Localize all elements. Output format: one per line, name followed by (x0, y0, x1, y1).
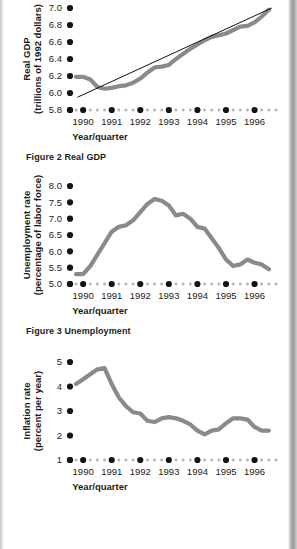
figure-caption-real-gdp: Figure 2 Real GDP (4, 152, 288, 162)
x-tick-marker-year (109, 281, 115, 287)
y-tick-marker (67, 5, 73, 11)
x-tick-marker-quarter (189, 459, 192, 462)
y-tick-marker (67, 199, 73, 205)
x-tick-marker-year (223, 107, 229, 113)
x-tick-marker-quarter (267, 459, 270, 462)
x-tick-marker-quarter (175, 109, 178, 112)
x-tick-marker-quarter (103, 459, 106, 462)
y-tick-label: 6.0 (49, 87, 62, 98)
y-tick-label: 5.8 (49, 104, 62, 115)
x-tick-marker-year (80, 281, 86, 287)
x-tick-marker-quarter (246, 109, 249, 112)
x-tick-marker-quarter (182, 459, 185, 462)
x-tick-marker-quarter (275, 109, 278, 112)
x-tick-marker-quarter (239, 459, 242, 462)
x-tick-label: 1995 (215, 116, 236, 127)
x-tick-marker-quarter (175, 459, 178, 462)
y-tick-label: 5.0 (49, 278, 62, 289)
x-tick-marker-quarter (210, 283, 213, 286)
x-tick-marker-quarter (117, 283, 120, 286)
x-tick-label: 1995 (215, 290, 236, 301)
x-axis-title: Year/quarter (72, 481, 128, 492)
x-tick-marker-quarter (125, 109, 128, 112)
y-tick-marker (67, 39, 73, 45)
y-tick-marker (67, 248, 73, 254)
y-tick-marker (67, 359, 73, 365)
y-tick-label: 6.4 (49, 53, 62, 64)
x-tick-label: 1993 (158, 290, 179, 301)
x-tick-label: 1996 (244, 290, 265, 301)
x-tick-marker-quarter (153, 109, 156, 112)
x-tick-label: 1994 (187, 116, 208, 127)
y-tick-label: 5 (57, 356, 62, 367)
y-tick-marker (67, 383, 73, 389)
x-tick-label: 1994 (187, 290, 208, 301)
figure-unemployment: 8.07.57.06.56.05.55.01990199119921993199… (4, 170, 288, 336)
x-tick-marker-quarter (246, 283, 249, 286)
figure-inflation: 543211990199119921993199419951996Year/qu… (4, 346, 288, 502)
x-tick-marker-quarter (232, 109, 235, 112)
x-tick-marker-quarter (103, 283, 106, 286)
y-axis-title-line-2: (percent per year) (32, 371, 43, 451)
x-tick-marker-quarter (125, 283, 128, 286)
y-tick-marker (67, 90, 73, 96)
x-tick-marker-quarter (246, 459, 249, 462)
y-tick-label: 6.2 (49, 70, 62, 81)
x-tick-marker-quarter (96, 283, 99, 286)
x-tick-marker-quarter (275, 283, 278, 286)
x-tick-marker-quarter (96, 459, 99, 462)
x-tick-marker-year (166, 281, 172, 287)
x-tick-label: 1990 (73, 116, 94, 127)
x-tick-marker-year (109, 107, 115, 113)
x-tick-marker-quarter (160, 283, 163, 286)
page-edge-right (288, 0, 297, 549)
y-axis-title-line-2: (percentage of labor force) (32, 175, 43, 295)
y-tick-label: 4 (57, 381, 62, 392)
x-tick-marker-year (166, 457, 172, 463)
x-tick-marker-quarter (275, 459, 278, 462)
x-tick-label: 1993 (158, 466, 179, 477)
x-tick-marker-quarter (117, 459, 120, 462)
x-tick-label: 1990 (73, 466, 94, 477)
axis-origin-marker (67, 281, 73, 287)
x-tick-label: 1995 (215, 466, 236, 477)
x-tick-marker-quarter (217, 109, 220, 112)
x-tick-marker-quarter (239, 109, 242, 112)
y-tick-marker (67, 56, 73, 62)
x-tick-marker-year (80, 457, 86, 463)
y-tick-marker (67, 432, 73, 438)
x-tick-label: 1991 (101, 290, 122, 301)
x-tick-marker-quarter (146, 109, 149, 112)
x-tick-marker-quarter (232, 283, 235, 286)
x-axis-title: Year/quarter (72, 305, 128, 316)
data-line (76, 199, 269, 274)
x-tick-label: 1991 (101, 466, 122, 477)
x-tick-marker-quarter (260, 109, 263, 112)
y-axis-title-line-1: Unemployment rate (21, 191, 32, 280)
y-tick-label: 7.5 (49, 197, 62, 208)
x-tick-marker-quarter (146, 459, 149, 462)
axis-origin-marker (67, 107, 73, 113)
trend-line (77, 8, 271, 97)
x-tick-marker-quarter (103, 109, 106, 112)
x-tick-label: 1992 (130, 466, 151, 477)
x-tick-marker-quarter (117, 109, 120, 112)
x-tick-marker-quarter (260, 459, 263, 462)
x-tick-marker-quarter (125, 459, 128, 462)
x-tick-marker-quarter (89, 109, 92, 112)
data-line (76, 10, 269, 89)
x-tick-marker-quarter (153, 459, 156, 462)
x-tick-marker-year (251, 107, 257, 113)
chart-inflation: 543211990199119921993199419951996Year/qu… (4, 346, 288, 502)
x-tick-marker-quarter (239, 283, 242, 286)
x-tick-marker-quarter (203, 109, 206, 112)
x-tick-marker-quarter (203, 283, 206, 286)
x-tick-marker-year (194, 457, 200, 463)
x-axis-title: Year/quarter (72, 131, 128, 142)
x-tick-marker-quarter (267, 109, 270, 112)
x-tick-marker-quarter (146, 283, 149, 286)
y-tick-label: 1 (57, 454, 62, 465)
chart-unemployment: 8.07.57.06.56.05.55.01990199119921993199… (4, 170, 288, 326)
x-tick-marker-quarter (267, 283, 270, 286)
x-tick-marker-quarter (75, 109, 78, 112)
